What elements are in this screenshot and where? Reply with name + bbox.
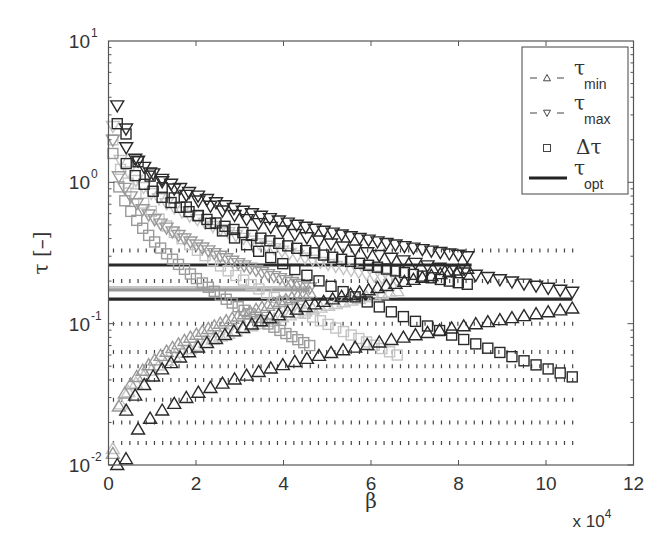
legend-subscript: max (584, 111, 610, 127)
x-multiplier: x 104 (573, 507, 612, 531)
x-tick-label: 8 (453, 473, 464, 494)
y-tick-label: 10 (69, 172, 90, 193)
x-tick-label: 0 (103, 473, 114, 494)
series-group (111, 101, 474, 470)
y-tick-labels: 10110010-110-2 (69, 26, 102, 476)
y-tick-label: 10 (69, 31, 90, 52)
legend: τminτmaxΔττopt (522, 47, 628, 194)
x-tick-label: 4 (278, 473, 289, 494)
x-tick-label: 10 (535, 473, 556, 494)
x-tick-label: 2 (191, 473, 202, 494)
y-tick-label: 10 (69, 455, 90, 476)
y-tick-exponent: -1 (91, 309, 102, 323)
y-tick-exponent: -2 (91, 450, 102, 464)
chart: 024681012 10110010-110-2 β x 104 τ [–] τ… (0, 0, 666, 554)
legend-subscript: min (584, 76, 607, 92)
series-group (120, 124, 579, 464)
x-axis-label: β (365, 489, 377, 513)
y-axis-label: τ [–] (29, 231, 53, 274)
legend-subscript: opt (584, 176, 604, 192)
x-tick-label: 12 (623, 473, 644, 494)
y-tick-exponent: 1 (91, 26, 98, 40)
y-tick-exponent: 0 (91, 167, 98, 181)
y-tick-label: 10 (69, 314, 90, 335)
data-series (106, 101, 578, 470)
